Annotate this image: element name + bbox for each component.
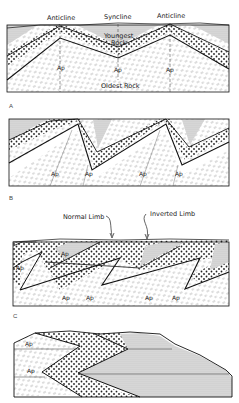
axial-plane-label: Ap <box>61 250 69 258</box>
axial-plane-label: Ap <box>166 66 174 74</box>
axial-plane-label: Ap <box>85 170 93 178</box>
axial-plane-label: Ap <box>114 66 122 74</box>
anticline-label-right: Anticline <box>157 12 185 20</box>
axial-plane-label: Ap <box>25 340 33 348</box>
axial-plane-label: Ap <box>51 170 59 178</box>
axial-plane-label: Ap <box>27 367 35 375</box>
panel-d: Ap Ap <box>14 331 232 397</box>
normal-limb-label: Normal Limb <box>63 213 104 221</box>
oldest-rock-label: Oldest Rock <box>101 82 140 90</box>
axial-plane-label: Ap <box>57 64 65 72</box>
youngest-rock-label-2: Rock <box>111 39 127 47</box>
inverted-limb-label: Inverted Limb <box>150 210 195 218</box>
fold-diagram: Anticline Syncline Anticline Youngest Ro… <box>0 0 239 403</box>
axial-plane-label: Ap <box>62 294 70 302</box>
axial-plane-label: Ap <box>86 294 94 302</box>
panel-a: Anticline Syncline Anticline Youngest Ro… <box>7 12 229 109</box>
axial-plane-label: Ap <box>139 170 147 178</box>
axial-plane-label: Ap <box>175 170 183 178</box>
syncline-label: Syncline <box>104 13 131 21</box>
panel-label-c: C <box>13 313 18 319</box>
panel-c: Normal Limb Inverted Limb Ap Ap Ap Ap Ap… <box>13 210 229 319</box>
axial-plane-label: Ap <box>16 264 24 272</box>
panel-b: Ap Ap Ap Ap B <box>9 119 229 201</box>
panel-label-b: B <box>9 195 13 201</box>
axial-plane-label: Ap <box>145 294 153 302</box>
anticline-label-left: Anticline <box>47 14 75 22</box>
axial-plane-label: Ap <box>172 294 180 302</box>
panel-label-a: A <box>9 103 13 109</box>
